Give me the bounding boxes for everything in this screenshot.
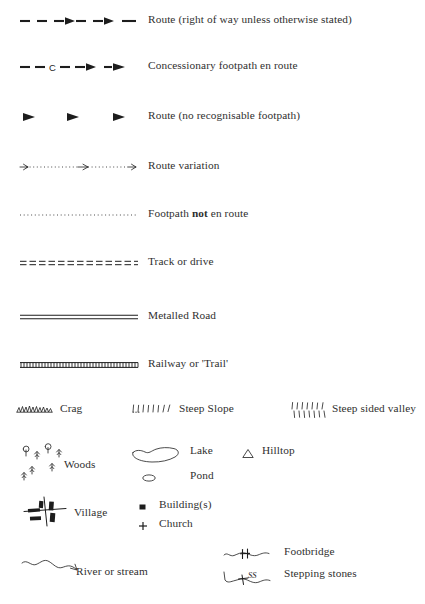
footpath-label-suffix: en route	[208, 207, 248, 219]
legend-label-lake: Lake	[190, 444, 213, 457]
footpath-label-emphasis: not	[192, 207, 208, 219]
stepping-stones-icon: SS	[222, 567, 276, 591]
legend-label-pond: Pond	[190, 469, 214, 482]
church-icon	[137, 520, 149, 532]
dotted-line-with-open-arrows-icon	[18, 160, 142, 174]
pond-icon	[140, 472, 158, 484]
legend-label-buildings: Building(s)	[159, 498, 212, 511]
legend-label-metalled-road: Metalled Road	[148, 309, 216, 322]
legend-label-crag: Crag	[60, 402, 82, 415]
legend-label-railway-or-trail: Railway or 'Trail'	[148, 357, 228, 370]
legend-label-church: Church	[159, 517, 193, 530]
legend-label-river-or-stream: River or stream	[76, 565, 148, 578]
steep-sided-valley-icon	[290, 400, 330, 420]
lake-icon	[130, 445, 186, 467]
stepping-stones-marker-text: SS	[248, 570, 257, 580]
legend-label-route-right-of-way: Route (right of way unless otherwise sta…	[148, 13, 352, 26]
legend-label-steep-sided-valley: Steep sided valley	[332, 402, 416, 415]
ladder-hatched-line-icon	[18, 358, 142, 372]
building-icon	[137, 501, 149, 513]
crag-icon	[16, 402, 54, 416]
legend-label-footpath-not-en-route: Footpath not en route	[148, 207, 248, 220]
dashed-line-with-c-and-arrows-icon: C	[18, 60, 142, 74]
legend-label-concessionary-footpath: Concessionary footpath en route	[148, 59, 298, 72]
legend-label-route-no-footpath: Route (no recognisable footpath)	[148, 109, 300, 122]
village-icon	[22, 496, 70, 528]
map-legend-sheet: Route (right of way unless otherwise sta…	[0, 0, 425, 604]
legend-label-stepping-stones: Stepping stones	[284, 567, 357, 580]
double-solid-line-icon	[18, 310, 142, 324]
footbridge-icon	[222, 545, 276, 565]
spaced-arrows-icon	[18, 110, 142, 124]
double-dashed-line-icon	[18, 256, 142, 270]
steep-slope-icon	[131, 403, 173, 415]
legend-label-footbridge: Footbridge	[284, 545, 335, 558]
legend-label-woods: Woods	[64, 458, 96, 471]
legend-label-steep-slope: Steep Slope	[179, 402, 234, 415]
dashed-line-with-arrows-icon	[18, 14, 142, 28]
legend-label-route-variation: Route variation	[148, 159, 219, 172]
legend-label-hilltop: Hilltop	[262, 444, 295, 457]
dotted-line-icon	[18, 208, 142, 222]
concessionary-marker-letter: C	[49, 62, 56, 73]
footpath-label-prefix: Footpath	[148, 207, 192, 219]
legend-label-track-or-drive: Track or drive	[148, 255, 214, 268]
legend-label-village: Village	[74, 506, 107, 519]
hilltop-icon	[240, 447, 256, 461]
